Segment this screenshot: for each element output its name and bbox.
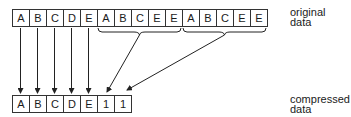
compressed-cell: 1 <box>115 96 132 112</box>
direct-copy-arrows <box>21 28 89 93</box>
group-braces <box>98 28 266 35</box>
arrow-diagonal-icon <box>107 35 140 92</box>
compressed-data-row: A B C D E 1 1 <box>12 95 132 113</box>
brace-icon <box>183 28 266 35</box>
brace-icon <box>98 28 181 35</box>
compressed-label-line2: data <box>290 104 350 114</box>
compressed-cell: D <box>64 96 81 112</box>
compressed-cell: A <box>13 96 30 112</box>
arrow-diagonal-icon <box>127 35 225 90</box>
compressed-cell: E <box>81 96 98 112</box>
compressed-cell: C <box>47 96 64 112</box>
compressed-cell: 1 <box>98 96 115 112</box>
compressed-cell: B <box>30 96 47 112</box>
compressed-data-label: compressed data <box>290 94 350 114</box>
